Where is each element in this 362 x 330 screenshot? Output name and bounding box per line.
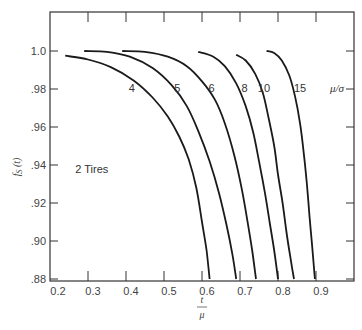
x-tick-label: 0.9 [313, 285, 328, 297]
curve-label: 10 [258, 82, 270, 94]
curve-label: 15 [294, 82, 306, 94]
curve-label: 6 [208, 82, 214, 94]
y-tick-label: .90 [31, 235, 46, 247]
mu-sigma-legend-label: μ/σ [329, 82, 345, 94]
y-tick-label: .98 [31, 83, 46, 95]
y-axis-label: fS (t) [11, 157, 24, 176]
curve-label: 5 [174, 82, 180, 94]
x-tick-label: 0.3 [85, 285, 100, 297]
x-tick-label: 0.2 [50, 285, 65, 297]
x-axis-label-numerator: t [201, 294, 204, 305]
x-axis-label-denominator: μ [198, 309, 204, 320]
x-tick-label: 0.8 [275, 285, 290, 297]
curve-labels: 45681015 [129, 82, 307, 94]
x-tick-label: 0.7 [237, 285, 252, 297]
y-tick-label: .92 [31, 197, 46, 209]
y-tick-label: .88 [31, 273, 46, 285]
y-tick-label: .94 [31, 159, 46, 171]
x-axis-label: t μ [197, 294, 207, 320]
curve-mu-sigma-6 [122, 51, 256, 279]
x-axis: 0.20.30.40.50.60.70.80.9 [50, 12, 328, 297]
x-tick-label: 0.5 [161, 285, 176, 297]
y-tick-label: .96 [31, 121, 46, 133]
x-tick-label: 0.4 [123, 285, 138, 297]
tires-annotation: 2 Tires [75, 163, 109, 175]
y-axis-label-text: fS (t) [11, 157, 24, 176]
chart: 1.0.98.96.94.92.90.88 0.20.30.40.50.60.7… [0, 0, 362, 330]
curve-label: 8 [241, 82, 247, 94]
curve-label: 4 [129, 82, 135, 94]
y-tick-label: 1.0 [31, 45, 46, 57]
